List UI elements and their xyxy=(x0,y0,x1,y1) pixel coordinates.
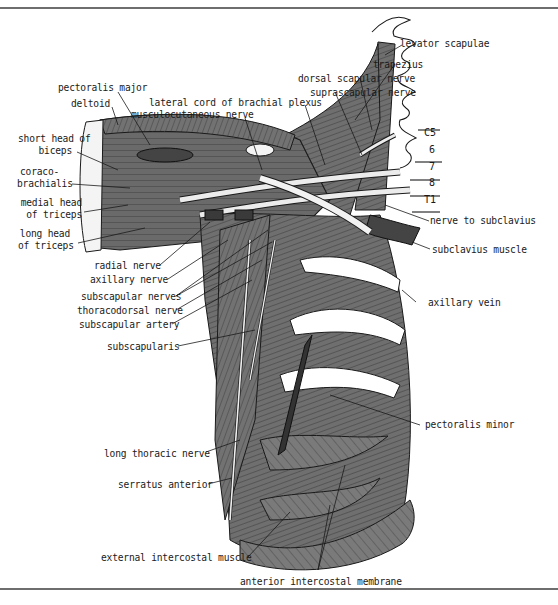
spinal-level-t1: T1 xyxy=(424,194,436,206)
label-levator-scapulae: levator scapulae xyxy=(400,38,489,49)
label-coracobrachialis-line1: coraco- xyxy=(20,166,59,177)
label-short-head-biceps-line2: biceps xyxy=(18,145,72,156)
label-deltoid: deltoid xyxy=(71,98,110,109)
label-nerve-to-subclavius: nerve to subclavius xyxy=(430,215,536,226)
label-external-intercostal-muscle: external intercostal muscle xyxy=(101,552,252,563)
label-axillary-vein: axillary vein xyxy=(428,297,501,308)
label-medial-head-triceps-line1: medial head xyxy=(18,197,82,208)
label-subscapular-nerves: subscapular nerves xyxy=(81,291,181,302)
label-long-head-triceps-line1: long head xyxy=(18,228,70,239)
spinal-level-c5: C5 xyxy=(424,127,436,139)
label-musculocutaneous-nerve: musculocutaneous nerve xyxy=(131,109,254,120)
label-coracobrachialis-line2: brachialis xyxy=(17,178,73,189)
label-trapezius: trapezius xyxy=(373,59,423,70)
label-lateral-cord: lateral cord of brachial plexus xyxy=(149,97,322,108)
label-short-head-biceps-line1: short head of xyxy=(18,133,86,144)
label-medial-head-triceps-line2: of triceps xyxy=(18,209,82,220)
label-dorsal-scapular-nerve: dorsal scapular nerve xyxy=(298,73,415,84)
label-anterior-intercostal-membrane: anterior intercostal membrane xyxy=(240,576,402,587)
label-subclavius-muscle: subclavius muscle xyxy=(432,244,527,255)
label-subscapularis: subscapularis xyxy=(107,341,180,352)
label-subscapular-artery: subscapular artery xyxy=(79,319,179,330)
label-thoracodorsal-nerve: thoracodorsal nerve xyxy=(77,305,183,316)
label-long-head-triceps-line2: of triceps xyxy=(18,240,72,251)
label-radial-nerve: radial nerve xyxy=(94,260,161,271)
label-suprascapular-nerve: suprascapular nerve xyxy=(310,87,416,98)
spinal-level-7: 7 xyxy=(429,161,435,173)
label-pectoralis-minor: pectoralis minor xyxy=(425,419,514,430)
label-serratus-anterior: serratus anterior xyxy=(118,479,213,490)
label-pectoralis-major: pectoralis major xyxy=(58,82,147,93)
label-long-thoracic-nerve: long thoracic nerve xyxy=(104,448,210,459)
spinal-level-8: 8 xyxy=(429,177,435,189)
spinal-level-6: 6 xyxy=(429,144,435,156)
label-axillary-nerve: axillary nerve xyxy=(90,274,168,285)
